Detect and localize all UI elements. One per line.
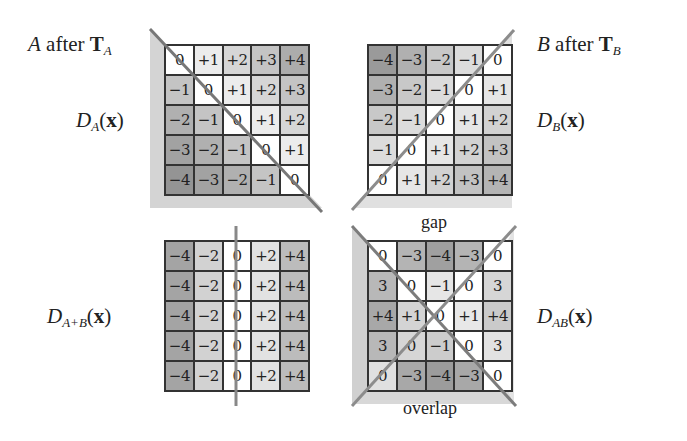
- grid-a-cell: −3: [194, 165, 223, 195]
- grid-b-cell: −1: [454, 45, 483, 75]
- grid-ab-cell: +1: [397, 301, 426, 331]
- grid-apb-cell: −4: [165, 301, 194, 331]
- grid-b-cell: +2: [426, 165, 455, 195]
- grid-b-cell: +2: [483, 105, 512, 135]
- grid-a-cell: −1: [194, 105, 223, 135]
- a-title-label: A after TA: [28, 32, 112, 59]
- grid-b-cell: +3: [483, 135, 512, 165]
- grid-apb-cell: +4: [280, 331, 309, 361]
- grid-b-cell: +4: [483, 165, 512, 195]
- grid-apb-cell: −2: [194, 301, 223, 331]
- grid-b-cell: 0: [454, 75, 483, 105]
- grid-b-cell: +1: [397, 165, 426, 195]
- grid-a-cell: +4: [280, 45, 309, 75]
- grid-b-cell: −2: [426, 45, 455, 75]
- grid-ab-cell: +4: [483, 301, 512, 331]
- grid-b-cell: +1: [483, 75, 512, 105]
- da-label: DA(x): [76, 108, 124, 135]
- grid-apb-cell: +2: [251, 271, 280, 301]
- grid-apb-cell: −4: [165, 361, 194, 391]
- grid-a-cell: +3: [280, 75, 309, 105]
- grid-a-cell: +2: [280, 105, 309, 135]
- grid-b-cell: +2: [454, 135, 483, 165]
- grid-ab-cell: +1: [454, 301, 483, 331]
- line-overlay: [0, 0, 687, 441]
- grid-a-cell: −2: [165, 105, 194, 135]
- grid-ab-cell: +4: [368, 301, 397, 331]
- grid-b-cell: −2: [397, 75, 426, 105]
- grid-ab-cell: 3: [368, 271, 397, 301]
- grid-b-cell: +1: [454, 105, 483, 135]
- grid-ab-cell: 0: [368, 361, 397, 391]
- grid-ab: 0 −3 −4 −3 0 3 0 −1 0 3 +4 +1 0 +1 +4 3 …: [367, 240, 513, 392]
- grid-ab-cell: 0: [397, 331, 426, 361]
- grid-a-cell: −2: [194, 135, 223, 165]
- grid-b-cell: −3: [397, 45, 426, 75]
- grid-ab-cell: 0: [368, 241, 397, 271]
- grid-a-cell: 0: [280, 165, 309, 195]
- grid-ab-cell: 0: [426, 301, 455, 331]
- grid-ab-cell: 0: [483, 361, 512, 391]
- grid-apb-cell: 0: [223, 271, 252, 301]
- overlap-caption: overlap: [403, 398, 457, 419]
- grid-apb-cell: +2: [251, 241, 280, 271]
- grid-b-cell: 0: [397, 135, 426, 165]
- grid-b-cell: 0: [368, 165, 397, 195]
- grid-ab-cell: 0: [454, 331, 483, 361]
- grid-apb-cell: +2: [251, 301, 280, 331]
- grid-apb-cell: +4: [280, 241, 309, 271]
- grid-apb-cell: 0: [223, 301, 252, 331]
- grid-ab-cell: −4: [426, 361, 455, 391]
- grid-apb-cell: −2: [194, 241, 223, 271]
- grid-a-cell: −3: [165, 135, 194, 165]
- grid-ab-cell: 3: [483, 271, 512, 301]
- grid-apb-cell: −4: [165, 241, 194, 271]
- grid-b-cell: −3: [368, 75, 397, 105]
- grid-a-cell: +2: [251, 75, 280, 105]
- grid-b: −4 −3 −2 −1 0 −3 −2 −1 0 +1 −2 −1 0 +1 +…: [367, 44, 513, 196]
- grid-ab-cell: −3: [397, 241, 426, 271]
- grid-b-cell: −4: [368, 45, 397, 75]
- grid-ab-cell: 3: [483, 331, 512, 361]
- grid-a: 0 +1 +2 +3 +4 −1 0 +1 +2 +3 −2 −1 0 +1 +…: [164, 44, 310, 196]
- dapb-label: DA+B(x): [47, 304, 111, 331]
- dab-label: DAB(x): [537, 304, 593, 331]
- grid-ab-cell: −3: [397, 361, 426, 391]
- grid-a-cell: +1: [223, 75, 252, 105]
- grid-apb-cell: +4: [280, 361, 309, 391]
- grid-a-cell: −2: [223, 165, 252, 195]
- grid-b-cell: 0: [426, 105, 455, 135]
- grid-apb-cell: 0: [223, 241, 252, 271]
- grid-a-plus-b: −4 −2 0 +2 +4 −4 −2 0 +2 +4 −4 −2 0 +2 +…: [164, 240, 310, 392]
- grid-b-cell: 0: [483, 45, 512, 75]
- grid-apb-cell: +4: [280, 301, 309, 331]
- db-label: DB(x): [537, 108, 585, 135]
- grid-a-cell: 0: [251, 135, 280, 165]
- grid-apb-cell: −2: [194, 331, 223, 361]
- grid-ab-cell: 0: [397, 271, 426, 301]
- grid-a-cell: +2: [223, 45, 252, 75]
- diagram-overlay: [0, 0, 687, 441]
- grid-b-cell: +3: [454, 165, 483, 195]
- grid-ab-cell: −3: [454, 361, 483, 391]
- grid-ab-cell: 0: [483, 241, 512, 271]
- grid-a-cell: −1: [251, 165, 280, 195]
- grid-ab-cell: −3: [454, 241, 483, 271]
- grid-apb-cell: +4: [280, 271, 309, 301]
- grid-a-cell: +3: [251, 45, 280, 75]
- grid-apb-cell: −2: [194, 361, 223, 391]
- grid-a-cell: 0: [165, 45, 194, 75]
- grid-a-cell: 0: [223, 105, 252, 135]
- grid-b-cell: −2: [368, 105, 397, 135]
- grid-apb-cell: −2: [194, 271, 223, 301]
- grid-apb-cell: −4: [165, 331, 194, 361]
- grid-ab-cell: −1: [426, 331, 455, 361]
- grid-apb-cell: 0: [223, 361, 252, 391]
- grid-a-cell: +1: [194, 45, 223, 75]
- grid-a-cell: 0: [194, 75, 223, 105]
- grid-apb-cell: +2: [251, 361, 280, 391]
- ab-wedge-left: [352, 228, 367, 404]
- gap-caption: gap: [421, 212, 447, 233]
- grid-b-cell: −1: [426, 75, 455, 105]
- grid-b-cell: +1: [426, 135, 455, 165]
